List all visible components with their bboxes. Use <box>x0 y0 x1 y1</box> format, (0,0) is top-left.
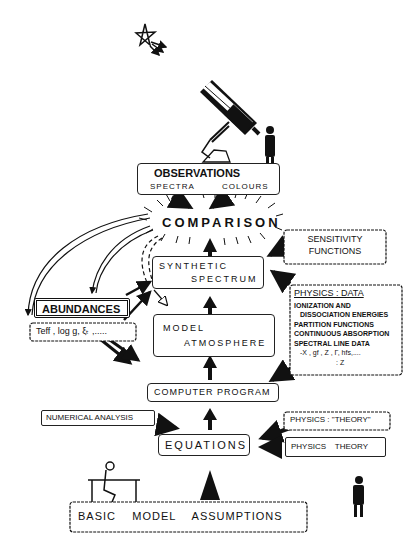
sensitivity-line2: FUNCTIONS <box>286 245 384 257</box>
abundances-box: ABUNDANCES <box>34 298 130 318</box>
sensitivity-line1: SENSITIVITY <box>286 233 384 245</box>
physics-data-line: SPECTRAL LINE DATA <box>294 339 389 349</box>
stellar-parameters: Teff , log g, ξₜ ,..... <box>36 327 107 336</box>
model-line2: ATMOSPHERE <box>184 339 266 348</box>
physics-theory-box: PHYSICS THEORY <box>285 437 386 457</box>
observations-colours: COLOURS <box>222 183 269 191</box>
star-icon <box>136 24 166 55</box>
numerical-analysis-box: NUMERICAL ANALYSIS <box>41 410 155 426</box>
physics-data-line: -X , gf , Z , Γ, hfs,.... <box>294 348 389 358</box>
telescope-icon <box>200 80 259 162</box>
physics-theory-quoted-label: PHYSICS : "THEORY" <box>290 416 371 424</box>
physics-theory-label: PHYSICS THEORY <box>291 443 368 451</box>
observations-title: OBSERVATIONS <box>154 168 240 179</box>
comparison-label: COMPARISON <box>162 216 281 229</box>
person-at-desk-icon <box>88 462 140 502</box>
physics-data-line: IONIZATION AND <box>294 301 389 311</box>
equations-box: EQUATIONS <box>158 434 250 456</box>
abundances-label: ABUNDANCES <box>42 304 120 315</box>
physics-data-line: DISSOCIATION ENERGIES <box>294 310 389 320</box>
computer-program-box: COMPUTER PROGRAM <box>147 383 279 402</box>
physics-data-line: PARTITION FUNCTIONS <box>294 320 389 330</box>
physics-data-line: : Z <box>294 358 389 368</box>
equations-label: EQUATIONS <box>165 440 247 451</box>
basic-model-assumptions-label: BASIC MODEL ASSUMPTIONS <box>78 511 283 522</box>
physics-data-title: PHYSICS : DATA <box>294 289 389 299</box>
observations-box: OBSERVATIONS SPECTRA COLOURS <box>137 163 280 195</box>
thinking-person-icon <box>353 476 364 517</box>
synthetic-line2: SPECTRUM <box>191 275 258 284</box>
numerical-analysis-label: NUMERICAL ANALYSIS <box>46 414 133 422</box>
physics-data-line: CONTINUOUS ABSORPTION <box>294 329 389 339</box>
synthetic-spectrum-box: SYNTHETIC SPECTRUM <box>152 256 264 289</box>
arrows-observations-to-comparison <box>172 196 228 207</box>
observations-spectra: SPECTRA <box>150 183 195 191</box>
computer-program-label: COMPUTER PROGRAM <box>154 388 271 397</box>
observer-figure-icon <box>265 126 275 163</box>
model-line1: MODEL <box>163 324 205 333</box>
model-atmosphere-box: MODEL ATMOSPHERE <box>153 314 275 357</box>
sensitivity-functions-box: SENSITIVITY FUNCTIONS <box>286 233 384 257</box>
synthetic-line1: SYNTHETIC <box>159 262 228 271</box>
physics-data-box: PHYSICS : DATA IONIZATION AND DISSOCIATI… <box>294 289 389 367</box>
